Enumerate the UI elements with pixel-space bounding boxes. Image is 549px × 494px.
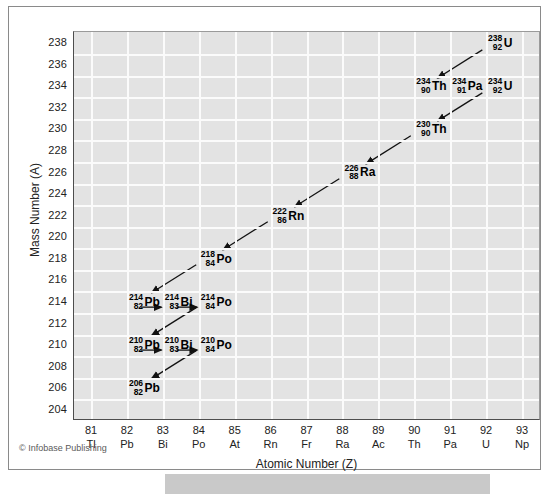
gridline-vertical	[235, 32, 237, 419]
x-axis-tick-number: 88	[322, 423, 362, 437]
x-axis-tick-number: 89	[358, 423, 398, 437]
isotope-numbers: 23490	[416, 77, 430, 95]
gridline-vertical	[342, 32, 344, 419]
y-axis-tick: 226	[11, 166, 67, 178]
x-axis-tick-labels: 81Tl82Pb83Bi84Po85At86Rn87Fr88Ra89Ac90Th…	[73, 423, 540, 457]
x-axis-tick-number: 86	[251, 423, 291, 437]
y-axis-tick: 228	[11, 144, 67, 156]
isotope-symbol: Ra	[359, 167, 376, 179]
isotope-label: 21484Po	[201, 293, 232, 311]
isotope-symbol: Th	[430, 123, 446, 135]
y-axis-tick: 238	[11, 36, 67, 48]
y-axis-tick: 206	[11, 381, 67, 393]
isotope-label: 23892U	[488, 34, 512, 52]
isotope-numbers: 21483	[165, 293, 179, 311]
x-axis-tick: 90Th	[394, 423, 434, 451]
isotope-symbol: Po	[215, 296, 232, 308]
isotope-label: 22286Rn	[273, 207, 305, 225]
x-axis-tick-number: 93	[502, 423, 542, 437]
y-axis-tick: 214	[11, 295, 67, 307]
gridline-vertical	[199, 32, 201, 419]
isotope-atomic-number: 84	[201, 302, 215, 311]
isotope-label: 23090Th	[416, 120, 446, 138]
x-axis-tick-symbol: Ac	[358, 437, 398, 451]
isotope-atomic-number: 84	[201, 259, 215, 268]
figure-card: Mass Number (A) 238236234232230228226224…	[8, 6, 541, 470]
isotope-label: 21084Po	[201, 336, 232, 354]
x-axis-tick-number: 85	[215, 423, 255, 437]
y-axis-tick: 208	[11, 360, 67, 372]
isotope-symbol: Bi	[179, 296, 193, 308]
x-axis-tick: 91Pa	[430, 423, 470, 451]
isotope-atomic-number: 84	[201, 345, 215, 354]
x-axis-tick: 92U	[466, 423, 506, 451]
isotope-numbers: 22688	[344, 164, 358, 182]
x-axis-tick: 89Ac	[358, 423, 398, 451]
y-axis-tick: 232	[11, 101, 67, 113]
gridline-vertical	[307, 32, 309, 419]
alpha-decay-arrow	[152, 265, 197, 293]
y-axis-tick: 222	[11, 209, 67, 221]
x-axis-tick: 84Po	[179, 423, 219, 451]
isotope-symbol: Rn	[287, 210, 305, 222]
gridline-vertical	[91, 32, 93, 419]
isotope-atomic-number: 83	[165, 345, 179, 354]
x-axis-tick: 93Np	[502, 423, 542, 451]
x-axis-tick-number: 84	[179, 423, 219, 437]
x-axis-tick-number: 91	[430, 423, 470, 437]
figure-root: Mass Number (A) 238236234232230228226224…	[0, 0, 549, 494]
x-axis-tick-symbol: Th	[394, 437, 434, 451]
x-axis-tick-symbol: At	[215, 437, 255, 451]
isotope-label: 22688Ra	[344, 164, 375, 182]
isotope-atomic-number: 83	[165, 302, 179, 311]
copyright-credit: © Infobase Publishing	[19, 443, 107, 453]
alpha-decay-arrow	[152, 351, 197, 379]
x-axis-tick-number: 81	[71, 423, 111, 437]
isotope-symbol: Th	[430, 80, 446, 92]
x-axis-tick-symbol: Pa	[430, 437, 470, 451]
y-axis-tick: 216	[11, 273, 67, 285]
y-axis-tick: 218	[11, 252, 67, 264]
isotope-label: 21083Bi	[165, 336, 193, 354]
isotope-atomic-number: 90	[416, 86, 430, 95]
isotope-numbers: 21083	[165, 336, 179, 354]
page-bottom-band	[165, 474, 490, 494]
x-axis-tick-number: 87	[287, 423, 327, 437]
isotope-atomic-number: 92	[488, 43, 502, 52]
isotope-numbers: 23491	[452, 77, 466, 95]
isotope-atomic-number: 90	[416, 129, 430, 138]
isotope-atomic-number: 91	[452, 86, 466, 95]
isotope-atomic-number: 82	[129, 345, 143, 354]
isotope-label: 20682Pb	[129, 379, 160, 397]
x-axis-tick-symbol: Pb	[107, 437, 147, 451]
isotope-symbol: Pb	[143, 339, 160, 351]
gridline-vertical	[163, 32, 165, 419]
y-axis-tick-labels: 2382362342322302282262242222202182162142…	[9, 31, 67, 420]
y-axis-tick: 212	[11, 317, 67, 329]
isotope-atomic-number: 86	[273, 216, 287, 225]
x-axis-tick: 86Rn	[251, 423, 291, 451]
y-axis-tick: 230	[11, 122, 67, 134]
gridline-vertical	[271, 32, 273, 419]
x-axis-tick-symbol: Bi	[143, 437, 183, 451]
isotope-label: 23492U	[488, 77, 512, 95]
isotope-atomic-number: 88	[344, 173, 358, 182]
isotope-numbers: 22286	[273, 207, 287, 225]
isotope-symbol: Pb	[143, 382, 160, 394]
isotope-numbers: 23090	[416, 120, 430, 138]
isotope-numbers: 21082	[129, 336, 143, 354]
isotope-symbol: U	[502, 80, 512, 92]
x-axis-tick-number: 92	[466, 423, 506, 437]
isotope-numbers: 21484	[201, 293, 215, 311]
x-axis-tick-symbol: Np	[502, 437, 542, 451]
isotope-atomic-number: 82	[129, 388, 143, 397]
x-axis-tick-number: 82	[107, 423, 147, 437]
isotope-symbol: Po	[215, 339, 232, 351]
isotope-label: 21884Po	[201, 250, 232, 268]
isotope-numbers: 23492	[488, 77, 502, 95]
x-axis-tick: 85At	[215, 423, 255, 451]
gridline-vertical	[522, 32, 524, 419]
isotope-symbol: Pa	[466, 80, 482, 92]
y-axis-tick: 234	[11, 79, 67, 91]
isotope-symbol: Pb	[143, 296, 160, 308]
